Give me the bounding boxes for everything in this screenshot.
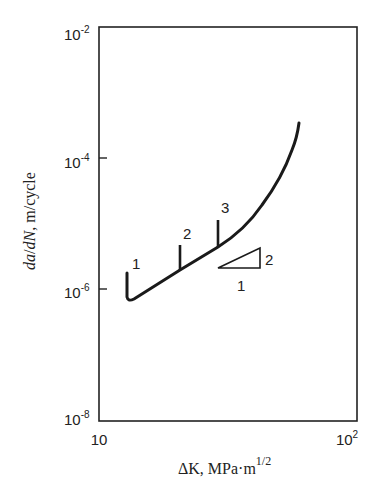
crack-growth-curve <box>127 123 299 300</box>
svg-text:10-2: 10-2 <box>64 24 90 43</box>
y-tick-labels: 10-2 10-4 10-6 10-8 <box>64 24 90 428</box>
y-axis-ticks <box>99 158 107 289</box>
svg-text:10-4: 10-4 <box>64 152 90 171</box>
transient-label-3: 3 <box>221 199 229 216</box>
svg-text:102: 102 <box>336 429 359 448</box>
slope-rise-label: 2 <box>265 251 273 268</box>
svg-text:10-6: 10-6 <box>64 282 90 301</box>
plot-frame <box>99 27 357 421</box>
svg-text:10: 10 <box>91 431 108 448</box>
slope-run-label: 1 <box>237 277 245 294</box>
slope-triangle <box>218 248 260 268</box>
x-tick-labels: 10 102 <box>91 429 359 448</box>
x-axis-label: ΔK, MPa·m1/2 <box>178 454 271 477</box>
y-axis-label: da/dN, m/cycle <box>21 172 39 270</box>
svg-text:10-8: 10-8 <box>64 409 90 428</box>
fatigue-crack-growth-chart: 10-2 10-4 10-6 10-8 10 102 ΔK, MPa·m1/2 … <box>0 0 388 496</box>
transient-label-1: 1 <box>132 255 140 272</box>
transient-label-2: 2 <box>183 225 191 242</box>
